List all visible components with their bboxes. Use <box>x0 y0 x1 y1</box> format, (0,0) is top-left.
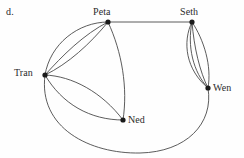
node-dot-ned <box>120 117 125 122</box>
node-dot-wen <box>205 85 210 90</box>
edge-layer <box>44 22 209 153</box>
edge-peta-tran-1 <box>45 22 108 75</box>
node-label-wen: Wen <box>213 82 231 93</box>
multigraph-diagram <box>0 0 244 158</box>
edge-tran-ned-1 <box>45 75 123 120</box>
node-label-ned: Ned <box>128 114 145 125</box>
node-layer <box>42 19 210 122</box>
node-dot-peta <box>105 19 110 24</box>
edge-tran-ned-2 <box>45 75 123 120</box>
node-label-seth: Seth <box>180 6 198 17</box>
edge-tran-wen-1 <box>44 75 208 153</box>
node-label-tran: Tran <box>14 67 33 78</box>
node-label-peta: Peta <box>93 6 111 17</box>
figure-root: d. Peta Seth Tran Ned Wen <box>0 0 244 158</box>
node-dot-seth <box>189 19 194 24</box>
node-dot-tran <box>42 72 47 77</box>
